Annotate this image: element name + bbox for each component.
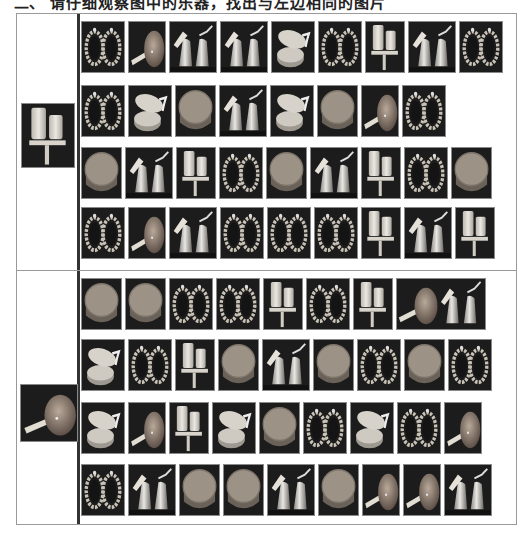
section-1-row-1 <box>81 21 503 73</box>
choice-tile-drum[interactable] <box>223 464 264 516</box>
section-2-row-4 <box>81 464 492 516</box>
choice-tile-drum[interactable] <box>317 85 358 137</box>
choice-tile-drum[interactable] <box>451 147 492 199</box>
reference-image-stand <box>21 103 75 168</box>
choice-tile-castanet[interactable] <box>212 402 256 454</box>
choice-tile-castanet[interactable] <box>350 402 394 454</box>
section-2-row-1 <box>81 278 486 330</box>
section-2-row-2 <box>81 339 492 391</box>
choice-tile-maraca[interactable] <box>361 85 399 137</box>
choice-tile-bells[interactable] <box>267 464 315 516</box>
choice-tile-drum[interactable] <box>218 339 259 391</box>
choice-tile-drum[interactable] <box>125 278 166 330</box>
choice-tile-bells[interactable] <box>444 464 492 516</box>
choice-tile-bells[interactable] <box>310 147 358 199</box>
choice-tile-bells[interactable] <box>125 147 173 199</box>
choice-tile-frame[interactable] <box>81 464 125 516</box>
choice-tile-frame[interactable] <box>216 278 260 330</box>
choice-tile-stand[interactable] <box>353 278 393 330</box>
choice-tile-frame[interactable] <box>169 278 213 330</box>
choice-tile-frame[interactable] <box>314 207 358 259</box>
choice-tile-frame[interactable] <box>404 147 448 199</box>
choice-tile-bells[interactable] <box>408 21 456 73</box>
choice-tile-maraca-bells[interactable] <box>396 278 486 330</box>
choice-tile-frame[interactable] <box>81 21 125 73</box>
choice-tile-drum[interactable] <box>318 464 359 516</box>
choice-tile-bells[interactable] <box>128 464 176 516</box>
choice-tile-castanet[interactable] <box>81 339 125 391</box>
choice-tile-maraca[interactable] <box>362 464 400 516</box>
question-number: 二、 <box>14 0 44 12</box>
choice-tile-drum[interactable] <box>179 464 220 516</box>
choice-tile-bells[interactable] <box>220 21 268 73</box>
choice-tile-stand[interactable] <box>169 402 209 454</box>
choice-tile-frame[interactable] <box>402 85 446 137</box>
choice-tile-frame[interactable] <box>128 339 172 391</box>
reference-image-maraca <box>20 384 78 442</box>
choice-tile-maraca[interactable] <box>403 464 441 516</box>
choice-tile-frame[interactable] <box>459 21 503 73</box>
choice-tile-frame[interactable] <box>448 339 492 391</box>
choice-tile-maraca[interactable] <box>444 402 482 454</box>
choice-tile-frame[interactable] <box>357 339 401 391</box>
choice-tile-stand[interactable] <box>361 147 401 199</box>
choice-tile-bells[interactable] <box>262 339 310 391</box>
section-divider <box>17 270 516 271</box>
choice-tile-bells[interactable] <box>169 207 217 259</box>
question-caption: 请仔细观察图中的乐器，找出与左边相同的图片 <box>50 0 386 7</box>
choice-tile-frame[interactable] <box>81 207 125 259</box>
choice-tile-stand[interactable] <box>365 21 405 73</box>
choice-tile-castanet[interactable] <box>270 85 314 137</box>
matching-table <box>16 13 517 525</box>
choice-tile-bells[interactable] <box>169 21 217 73</box>
choice-tile-drum[interactable] <box>81 278 122 330</box>
choice-tile-stand[interactable] <box>175 339 215 391</box>
choice-tile-stand[interactable] <box>455 207 495 259</box>
choice-tile-frame[interactable] <box>219 147 263 199</box>
section-1-row-4 <box>81 207 495 259</box>
choice-tile-drum[interactable] <box>313 339 354 391</box>
choice-tile-frame[interactable] <box>267 207 311 259</box>
choice-tile-drum[interactable] <box>404 339 445 391</box>
choice-tile-frame[interactable] <box>306 278 350 330</box>
choice-tile-frame[interactable] <box>303 402 347 454</box>
section-1-row-3 <box>81 147 492 199</box>
choice-tile-maraca[interactable] <box>128 402 166 454</box>
choice-tile-maraca[interactable] <box>128 207 166 259</box>
choice-tile-drum[interactable] <box>175 85 216 137</box>
choice-tile-drum[interactable] <box>81 147 122 199</box>
column-divider <box>77 14 80 524</box>
choice-tile-frame[interactable] <box>220 207 264 259</box>
section-1-row-2 <box>81 85 446 137</box>
choice-tile-frame[interactable] <box>397 402 441 454</box>
choice-tile-bells[interactable] <box>404 207 452 259</box>
choice-tile-castanet[interactable] <box>271 21 315 73</box>
choice-tile-frame[interactable] <box>81 85 125 137</box>
choice-tile-castanet[interactable] <box>81 402 125 454</box>
choice-tile-drum[interactable] <box>266 147 307 199</box>
choice-tile-stand[interactable] <box>263 278 303 330</box>
choice-tile-bells[interactable] <box>219 85 267 137</box>
choice-tile-castanet[interactable] <box>128 85 172 137</box>
choice-tile-stand[interactable] <box>361 207 401 259</box>
choice-tile-maraca[interactable] <box>128 21 166 73</box>
choice-tile-stand[interactable] <box>176 147 216 199</box>
section-2-row-3 <box>81 402 482 454</box>
choice-tile-drum[interactable] <box>259 402 300 454</box>
choice-tile-frame[interactable] <box>318 21 362 73</box>
